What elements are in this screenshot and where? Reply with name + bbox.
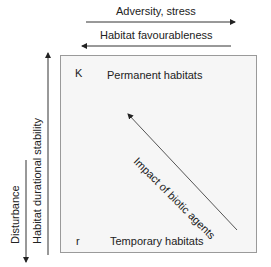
temporary-habitats-label: Temporary habitats — [110, 235, 204, 247]
permanent-habitats-label: Permanent habitats — [107, 69, 202, 81]
favourableness-label: Habitat favourableness — [100, 29, 213, 41]
disturbance-label: Disturbance — [9, 185, 21, 244]
adversity-label: Adversity, stress — [116, 5, 196, 17]
r-corner-label: r — [76, 235, 80, 247]
k-corner-label: K — [75, 67, 82, 79]
stability-label: Habitat durational stability — [31, 118, 43, 244]
